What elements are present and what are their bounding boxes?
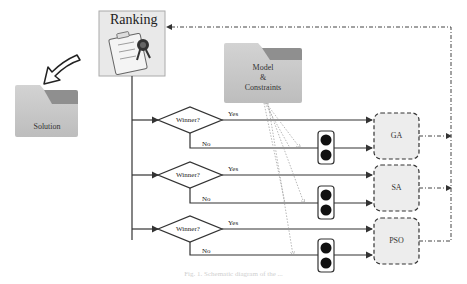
decision-row-2: [132, 162, 372, 203]
decision-yes-1: Yes: [228, 110, 238, 118]
decision-label-2: Winner?: [176, 171, 200, 179]
model-label-line3: Constraints: [236, 83, 290, 92]
model-label-line1: Model: [236, 63, 290, 72]
traffic-light-icon-1: [318, 131, 334, 164]
ranking-title: Ranking: [110, 12, 157, 28]
algo-label-ga: GA: [374, 131, 419, 140]
decision-yes-3: Yes: [228, 219, 238, 227]
solution-label: Solution: [22, 122, 72, 131]
decision-no-3: No: [202, 247, 211, 255]
algo-label-sa: SA: [374, 183, 419, 192]
traffic-light-icon-3: [318, 239, 334, 272]
curved-arrow-to-solution: [44, 55, 80, 84]
decision-label-3: Winner?: [176, 225, 200, 233]
decision-yes-2: Yes: [228, 165, 238, 173]
decision-row-3: [132, 216, 372, 255]
decision-no-2: No: [202, 195, 211, 203]
model-constraint-links: [264, 103, 304, 255]
traffic-light-icon-2: [318, 186, 334, 219]
decision-row-1: [132, 107, 372, 148]
algo-label-pso: PSO: [374, 236, 419, 245]
decision-label-1: Winner?: [176, 116, 200, 124]
model-label-line2: &: [236, 73, 290, 82]
decision-no-1: No: [202, 140, 211, 148]
figure-caption: Fig. 1. Schematic diagram of the ...: [0, 270, 467, 278]
